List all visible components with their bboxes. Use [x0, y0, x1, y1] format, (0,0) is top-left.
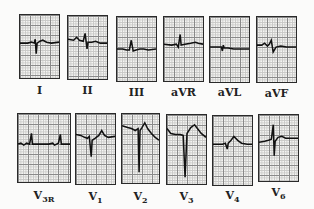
ecg-panel-lead-v3r — [17, 113, 71, 183]
lead-label-v3: V3 — [166, 190, 207, 205]
lead-label-iii: III — [116, 86, 157, 99]
lead-label-v6: V6 — [258, 186, 299, 201]
ecg-panel-lead-iii — [116, 16, 157, 82]
lead-label-v1: V1 — [75, 190, 116, 205]
ecg-panel-lead-avr — [163, 16, 204, 82]
lead-label-v4: V4 — [212, 189, 253, 204]
ecg-panel-lead-v4 — [212, 115, 253, 186]
lead-label-v2: V2 — [121, 190, 160, 205]
ecg-panel-lead-i — [19, 14, 60, 79]
lead-label-avl: aVL — [209, 86, 250, 99]
ecg-panel-lead-avl — [209, 16, 250, 83]
ecg-panel-lead-ii — [67, 15, 108, 80]
lead-label-avr: aVR — [163, 86, 204, 99]
lead-label-v3r: V3R — [17, 189, 71, 204]
ecg-panel-lead-avf — [256, 16, 297, 83]
ecg-panel-lead-v2 — [121, 113, 160, 184]
lead-label-avf: aVF — [256, 87, 297, 100]
ecg-panel-lead-v6 — [258, 114, 299, 182]
lead-label-i: I — [19, 84, 60, 97]
ecg-panel-lead-v3 — [166, 114, 207, 185]
ecg-panel-lead-v1 — [75, 113, 116, 185]
lead-label-ii: II — [67, 84, 108, 97]
